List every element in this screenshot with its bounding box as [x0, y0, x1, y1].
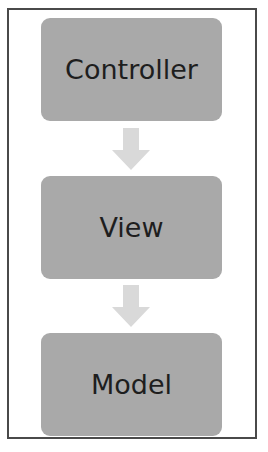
node-view: View	[41, 176, 222, 279]
node-model: Model	[41, 333, 222, 436]
arrow-down-icon	[110, 128, 152, 170]
arrow-down-icon	[110, 285, 152, 327]
node-controller: Controller	[41, 18, 222, 121]
node-label: Model	[91, 369, 172, 400]
node-label: Controller	[65, 54, 198, 85]
node-label: View	[99, 212, 163, 243]
